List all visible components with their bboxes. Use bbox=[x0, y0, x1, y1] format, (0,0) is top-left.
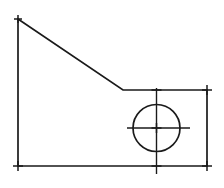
drawing-background bbox=[0, 0, 224, 188]
technical-drawing-canvas: Bracket Outline with Center-Marked Hole … bbox=[0, 0, 224, 188]
